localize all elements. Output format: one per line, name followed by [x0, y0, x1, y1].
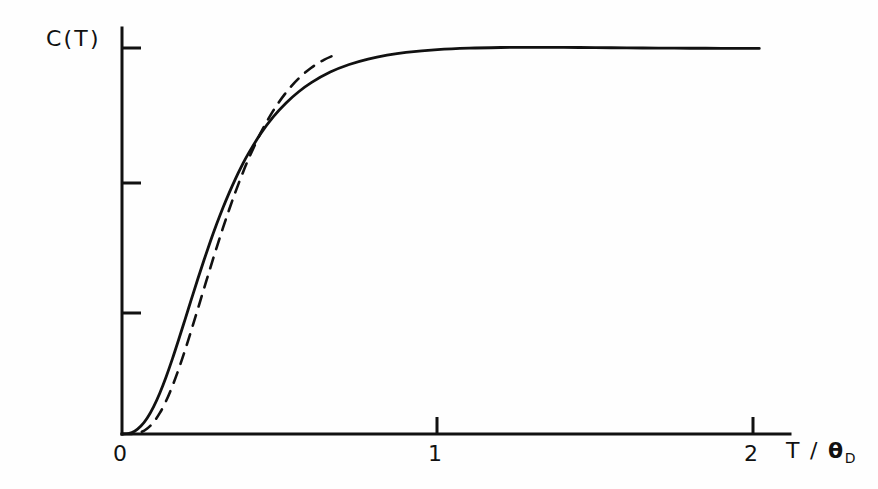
theta-symbol: θ	[828, 438, 845, 463]
x-tick-label-1: 1	[428, 443, 443, 465]
x-tick-label-0: 0	[113, 443, 128, 465]
x-axis-title-subscript: D	[845, 450, 856, 466]
x-tick-label-2: 2	[744, 443, 759, 465]
einstein-curve	[122, 54, 337, 434]
x-axis-title-numerator: T	[786, 438, 801, 463]
chart-plot-area	[0, 0, 878, 489]
figure-root: C(T) 0 1 2 T / θD	[0, 0, 878, 489]
y-axis-title: C(T)	[46, 28, 101, 50]
x-axis-title-separator: /	[801, 438, 828, 463]
x-axis-title: T / θD	[786, 440, 856, 465]
x-axis-ticks	[437, 417, 753, 434]
y-axis-ticks	[122, 48, 141, 313]
